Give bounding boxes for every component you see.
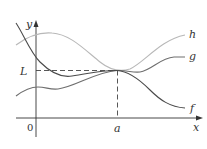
origin-label: 0 <box>27 122 33 133</box>
curve-h <box>16 33 185 70</box>
curve-f-label: f <box>189 102 196 115</box>
curve-h-label: h <box>189 28 196 41</box>
x-axis-arrow-icon <box>196 116 203 121</box>
limit-label: L <box>19 65 27 78</box>
x-axis-label: x <box>193 121 200 134</box>
y-axis-arrow-icon <box>34 20 39 27</box>
curve-f <box>16 23 185 108</box>
dashed-guides <box>36 71 118 119</box>
y-axis-label: y <box>25 18 33 31</box>
squeeze-theorem-diagram: y x 0 a L h g f <box>0 0 207 149</box>
curve-g-label: g <box>189 50 196 63</box>
point-a-label: a <box>114 122 121 135</box>
